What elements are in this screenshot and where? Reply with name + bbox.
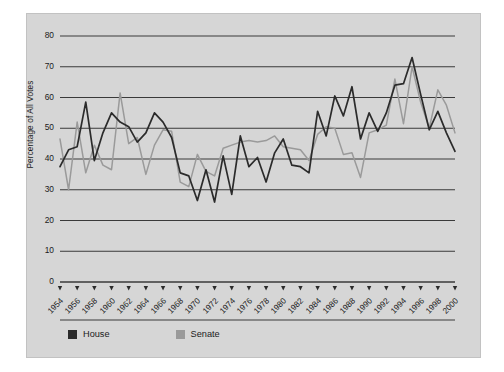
x-axis-tick-mark (315, 286, 319, 290)
x-axis-tick-mark (436, 286, 440, 290)
series-line-house (60, 58, 455, 203)
data-series-layer (60, 58, 455, 203)
x-axis-tick-mark (333, 286, 337, 290)
x-axis-tick-mark (230, 286, 234, 290)
x-axis-tick-mark (161, 286, 165, 290)
chart-legend: House Senate (68, 329, 220, 339)
x-axis-tick-mark (144, 286, 148, 290)
x-axis-tick-mark (367, 286, 371, 290)
x-axis-tick-mark (109, 286, 113, 290)
legend-label-house: House (83, 329, 110, 339)
legend-label-senate: Senate (191, 329, 220, 339)
x-axis-tick-mark (212, 286, 216, 290)
x-axis-tick-mark (298, 286, 302, 290)
x-axis-tick-mark (264, 286, 268, 290)
x-axis-tick-mark (247, 286, 251, 290)
x-axis-tick-mark (418, 286, 422, 290)
legend-item-house[interactable]: House (68, 329, 110, 339)
legend-swatch-senate (176, 330, 185, 339)
legend-swatch-house (68, 330, 77, 339)
chart-figure: Percentage of All Votes 0102030405060708… (0, 0, 504, 372)
legend-item-senate[interactable]: Senate (176, 329, 220, 339)
x-axis-tick-mark (281, 286, 285, 290)
x-axis-tick-mark (126, 286, 130, 290)
x-axis-tick-mark (178, 286, 182, 290)
x-axis-tick-mark (453, 286, 457, 290)
x-axis-tick-mark (350, 286, 354, 290)
x-axis-tick-mark (58, 286, 62, 290)
x-axis-tick-mark (384, 286, 388, 290)
plot-area (0, 0, 504, 372)
x-axis-tick-mark (195, 286, 199, 290)
x-axis-tick-mark (75, 286, 79, 290)
x-axis-tick-marks (58, 286, 457, 290)
x-axis-tick-mark (401, 286, 405, 290)
x-axis-tick-mark (92, 286, 96, 290)
